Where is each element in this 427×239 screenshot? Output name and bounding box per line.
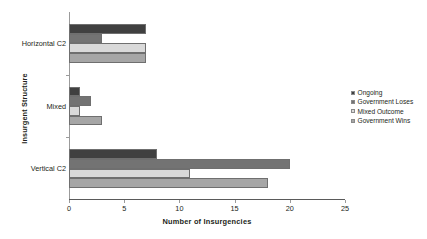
bar-mixed-ongoing <box>69 87 80 97</box>
bar-vertical-c2-government-loses <box>69 159 290 169</box>
category-tick <box>66 137 69 138</box>
bar-horizontal-c2-mixed-outcome <box>69 43 146 53</box>
legend-label: Mixed Outcome <box>358 107 404 116</box>
legend-swatch-icon <box>351 91 355 95</box>
legend-swatch-icon <box>351 109 355 113</box>
plot-area <box>69 12 345 200</box>
x-axis-ticks: 0510152025 <box>69 200 345 216</box>
legend-swatch-icon <box>351 100 355 104</box>
bar-vertical-c2-ongoing <box>69 149 157 159</box>
legend-label: Government Wins <box>358 116 411 125</box>
x-axis-title: Number of Insurgencies <box>69 217 345 226</box>
x-tick-label-5: 5 <box>122 204 126 213</box>
bar-chart: Insurgent Structure Horizontal C2MixedVe… <box>0 0 427 239</box>
legend-item-government-loses[interactable]: Government Loses <box>351 97 427 106</box>
x-tick-label-0: 0 <box>67 204 71 213</box>
legend-item-ongoing[interactable]: Ongoing <box>351 88 427 97</box>
legend-item-government-wins[interactable]: Government Wins <box>351 116 427 125</box>
bar-mixed-government-loses <box>69 96 91 106</box>
legend-label: Ongoing <box>358 88 383 97</box>
x-tick-mark <box>235 200 236 203</box>
x-tick-label-25: 25 <box>341 204 349 213</box>
legend-item-mixed-outcome[interactable]: Mixed Outcome <box>351 107 427 116</box>
x-tick-label-20: 20 <box>286 204 294 213</box>
bar-vertical-c2-mixed-outcome <box>69 169 190 179</box>
x-tick-mark <box>179 200 180 203</box>
chart-legend: OngoingGovernment LosesMixed OutcomeGove… <box>351 88 427 126</box>
bar-horizontal-c2-ongoing <box>69 24 146 34</box>
y-tick-label-mixed: Mixed <box>4 102 66 111</box>
y-axis-tick-labels: Horizontal C2MixedVertical C2 <box>0 0 66 200</box>
x-tick-mark <box>124 200 125 203</box>
x-tick-mark <box>345 200 346 203</box>
x-tick-mark <box>69 200 70 203</box>
bar-mixed-government-wins <box>69 116 102 126</box>
bar-mixed-mixed-outcome <box>69 106 80 116</box>
y-tick-label-vertical-c2: Vertical C2 <box>4 164 66 173</box>
x-tick-mark <box>290 200 291 203</box>
bar-horizontal-c2-government-wins <box>69 53 146 63</box>
y-tick-label-horizontal-c2: Horizontal C2 <box>4 39 66 48</box>
bar-horizontal-c2-government-loses <box>69 34 102 44</box>
legend-label: Government Loses <box>358 97 414 106</box>
x-tick-label-15: 15 <box>231 204 239 213</box>
x-tick-label-10: 10 <box>175 204 183 213</box>
legend-swatch-icon <box>351 119 355 123</box>
category-tick <box>66 75 69 76</box>
bar-vertical-c2-government-wins <box>69 178 268 188</box>
